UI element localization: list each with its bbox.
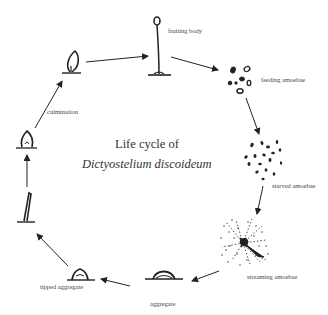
arrow-feeding-to-starved [246, 98, 259, 134]
fruiting-body-icon [148, 17, 171, 75]
arrow-starved-to-streaming [257, 186, 263, 214]
slug-icon [17, 193, 35, 222]
feeding-amoebae-icon [228, 66, 251, 94]
arrow-fruiting-to-feeding [171, 57, 218, 70]
tipped-aggregate-icon [67, 269, 95, 280]
arrow-streaming-to-aggregate [192, 271, 219, 281]
arrow-aggregate-to-tipped [101, 279, 130, 286]
arrow-early-to-culmination [35, 81, 62, 128]
culmination-icon [62, 51, 81, 73]
label-feeding-amoebae: feeding amoebae [261, 76, 305, 83]
label-starved-amoebae: starved amoebae [272, 182, 316, 189]
streaming-amoebae-icon [220, 219, 268, 266]
label-streaming-amoebae: streaming amoebae [247, 273, 297, 280]
arrow-culmination-to-fruiting [86, 56, 148, 62]
label-fruiting-body: fruiting body [168, 27, 202, 34]
diagram-title-line2: Dictyostelium discoideum [82, 157, 212, 172]
diagram-title-line1: Life cycle of [115, 137, 179, 152]
label-aggregate: aggregate [150, 300, 175, 307]
label-culmination: culmination [47, 108, 78, 115]
starved-amoebae-icon [244, 140, 283, 180]
arrow-tipped-to-slug [37, 234, 68, 266]
aggregate-icon [145, 271, 183, 279]
early-culmination-icon [16, 131, 37, 148]
label-tipped-aggregate: tipped aggregate [40, 283, 83, 290]
